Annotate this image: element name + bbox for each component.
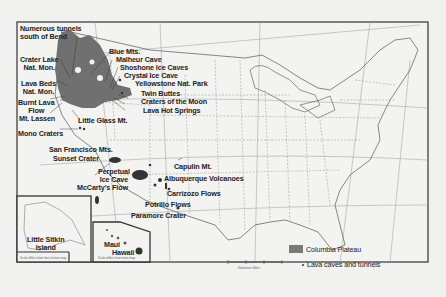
label-yellowstone: Yellowstone Nat. Park	[135, 80, 208, 88]
scale-label: Kilometers Miles	[238, 266, 260, 270]
map-figure: Numerous tunnelssouth of Bend Crater Lak…	[0, 0, 446, 297]
label-little-sitkin-island: Little SitkinIsland	[27, 236, 64, 251]
label-capulin-mt: Capulin Mt.	[174, 163, 212, 171]
hawaii-inset-caption: Scale differs from main map	[98, 256, 135, 260]
label-burnt-lava-flow: Burnt LavaFlow	[18, 99, 55, 114]
label-little-glass-mt: Little Glass Mt.	[78, 117, 128, 125]
label-potrillo-flows: Potrillo Flows	[145, 201, 191, 209]
legend-cave-dot	[302, 264, 304, 266]
label-san-francisco-mts: San Francisco Mts.	[49, 146, 113, 154]
label-mt-lassen: Mt. Lassen	[19, 115, 55, 123]
label-paramore-crater: Paramore Crater	[131, 212, 186, 220]
legend-plateau-swatch	[289, 245, 303, 253]
label-perpetual-ice-cave: PerpetualIce Cave	[98, 168, 130, 183]
label-sunset-crater: Sunset Crater	[53, 155, 99, 163]
label-lava-hot-springs: Lava Hot Springs	[143, 107, 201, 115]
label-craters-of-the-moon: Craters of the Moon	[141, 98, 207, 106]
label-mono-craters: Mono Craters	[18, 130, 63, 138]
label-numerous-tunnels: Numerous tunnelssouth of Bend	[20, 25, 82, 40]
label-carrizozo-flows: Carrizozo Flows	[167, 190, 221, 198]
label-crater-lake: Crater LakeNat. Mon.	[20, 56, 58, 71]
label-mccartys-flow: McCarty's Flow	[77, 184, 128, 192]
label-albuquerque-volcanoes: Albuquerque Volcanoes	[164, 175, 244, 183]
legend-plateau-label: Columbia Plateau	[306, 246, 361, 254]
label-lava-beds: Lava BedsNat. Mon.	[21, 80, 56, 95]
alaska-inset-caption: Scale differs from that of main map	[20, 256, 66, 260]
legend-caves-label: Lava caves and tunnels	[307, 261, 380, 269]
